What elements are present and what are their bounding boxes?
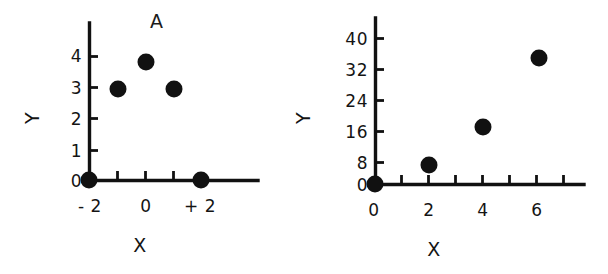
panel-b-ytick-label-16: 16 <box>345 122 368 142</box>
panel-a-y-axis-title: Y <box>21 112 43 124</box>
data-point <box>475 119 492 136</box>
data-point <box>193 172 210 189</box>
data-point <box>531 50 548 67</box>
data-point <box>421 157 438 174</box>
x-axis-ticks <box>118 171 174 180</box>
panel-a-xtick-label-plus2: + 2 <box>184 196 216 216</box>
data-point <box>110 81 127 98</box>
data-point <box>367 176 384 193</box>
panel-a: A 4 3 2 1 0 - 2 0 + 2 Y X <box>0 0 304 274</box>
panel-a-ytick-label-2: 2 <box>71 109 82 129</box>
panel-a-xtick-label-minus2: - 2 <box>78 196 102 216</box>
scatter-plot-figure: A 4 3 2 1 0 - 2 0 + 2 Y X <box>0 0 608 274</box>
panel-a-ytick-label-0: 0 <box>71 171 82 191</box>
data-point-group <box>367 50 548 193</box>
panel-b-ytick-label-24: 24 <box>345 91 368 111</box>
panel-a-ytick-label-3: 3 <box>71 78 82 98</box>
panel-b-xtick-label-6: 6 <box>531 200 542 220</box>
panel-a-title: A <box>150 10 164 32</box>
panel-a-xtick-label-0: 0 <box>140 196 151 216</box>
panel-b-ytick-label-8: 8 <box>357 153 368 173</box>
panel-a-axes <box>0 0 304 274</box>
data-point <box>166 81 183 98</box>
panel-b-xtick-label-0: 0 <box>368 200 379 220</box>
panel-a-ytick-label-1: 1 <box>71 141 82 161</box>
panel-a-x-axis-title: X <box>133 234 147 256</box>
panel-b-xtick-label-4: 4 <box>477 200 488 220</box>
data-point-group <box>81 54 210 189</box>
data-point <box>81 172 98 189</box>
panel-b-ytick-label-40: 40 <box>345 29 368 49</box>
panel-a-ytick-label-4: 4 <box>71 46 82 66</box>
panel-b-ytick-label-32: 32 <box>345 60 368 80</box>
data-point <box>138 54 155 71</box>
panel-b-x-axis-title: X <box>427 238 441 260</box>
panel-b-y-axis-title: Y <box>292 112 314 124</box>
panel-b-xtick-label-2: 2 <box>423 200 434 220</box>
panel-b-ytick-label-0: 0 <box>357 175 368 195</box>
x-axis-ticks <box>402 175 564 184</box>
panel-b: B 40 32 24 16 8 0 0 2 4 6 Y X <box>304 0 608 274</box>
